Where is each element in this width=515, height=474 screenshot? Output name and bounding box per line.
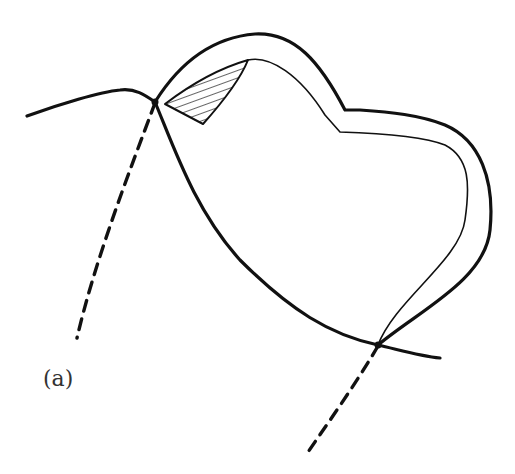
panel-label: (a)	[43, 366, 73, 391]
hatched-region	[165, 60, 248, 124]
gum-line-curve	[27, 90, 440, 358]
upper-dashed-line	[77, 103, 155, 338]
upper-junction-point	[152, 99, 159, 106]
tooth-diagram	[0, 0, 515, 474]
lower-dashed-line	[306, 346, 378, 455]
lower-junction-point	[375, 342, 382, 349]
figure-canvas: (a)	[0, 0, 515, 474]
